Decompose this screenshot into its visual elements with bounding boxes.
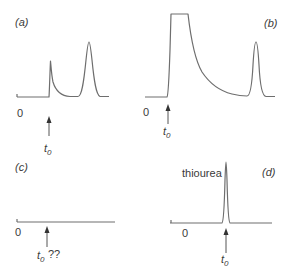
- panel-b-trace: [145, 14, 275, 97]
- panel-a-zero-label: 0: [17, 107, 23, 119]
- panel-a-t0-label: t0: [44, 142, 52, 157]
- panel-b: (b) 0 t0: [143, 14, 278, 140]
- panel-c-uncertain-mark: ??: [48, 248, 60, 260]
- panel-c-t0-arrow-head-icon: [45, 226, 50, 233]
- panel-d-peak-label: thiourea: [182, 167, 223, 179]
- panel-a: (a) 0 t0: [15, 16, 109, 157]
- chromatogram-figure: (a) 0 t0 (b) 0 t0 (c) 0 t0 ?? thiourea (…: [0, 0, 291, 277]
- panel-c: (c) 0 t0 ??: [15, 161, 115, 264]
- panel-a-label: (a): [15, 16, 29, 28]
- panel-b-zero-label: 0: [143, 106, 149, 118]
- panel-d-zero-label: 0: [182, 227, 188, 239]
- panel-d-label: (d): [262, 166, 276, 178]
- panel-d-t0-label: t0: [221, 253, 229, 268]
- panel-c-t0-label: t0: [37, 249, 45, 264]
- panel-a-t0-arrow-head-icon: [47, 116, 52, 123]
- panel-c-zero-label: 0: [15, 226, 21, 238]
- panel-d: thiourea (d) 0 t0: [170, 162, 276, 268]
- panel-b-t0-arrow-head-icon: [166, 104, 171, 111]
- panel-b-label: (b): [264, 17, 278, 29]
- panel-c-label: (c): [15, 161, 28, 173]
- panel-a-trace: [17, 42, 109, 97]
- panel-b-t0-label: t0: [163, 125, 171, 140]
- panel-d-t0-arrow-head-icon: [224, 228, 229, 235]
